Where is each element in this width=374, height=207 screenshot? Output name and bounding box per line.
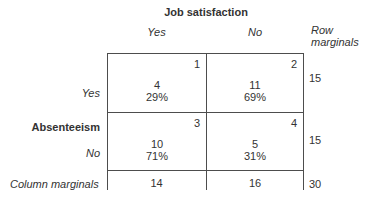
- cell-3-values: 10 71%: [108, 138, 206, 162]
- cell-1: 1 4 29%: [108, 54, 207, 113]
- cell-3-number: 3: [194, 117, 200, 129]
- cell-4: 4 5 31%: [207, 113, 303, 170]
- cell-4-number: 4: [291, 117, 297, 129]
- row-marginal-yes: 15: [309, 72, 321, 84]
- column-marginal-yes: 14: [107, 177, 206, 189]
- cell-4-values: 5 31%: [207, 138, 303, 162]
- cell-1-count: 4: [108, 79, 206, 91]
- row-marginals-header: Row marginals: [311, 24, 369, 48]
- table-grid: 1 4 29% 2 11 69% 3 10 71% 4 5 31%: [107, 53, 304, 171]
- cell-1-percent: 29%: [108, 91, 206, 103]
- cell-2-percent: 69%: [207, 91, 303, 103]
- grand-total: 30: [309, 178, 321, 190]
- cell-3-percent: 71%: [108, 150, 206, 162]
- col-header-yes: Yes: [107, 26, 206, 38]
- cell-4-count: 5: [207, 138, 303, 150]
- cell-2-values: 11 69%: [207, 79, 303, 103]
- row-axis-label: Absenteeism: [0, 121, 100, 133]
- row-header-yes: Yes: [0, 87, 100, 99]
- row-header-no: No: [0, 147, 100, 159]
- contingency-table-figure: Job satisfaction Yes No Row marginals Ye…: [0, 0, 374, 207]
- cell-1-number: 1: [194, 58, 200, 70]
- column-marginal-no: 16: [206, 177, 304, 189]
- cell-1-values: 4 29%: [108, 79, 206, 103]
- col-header-no: No: [206, 26, 304, 38]
- figure-title: Job satisfaction: [106, 6, 306, 18]
- row-marginal-no: 15: [309, 134, 321, 146]
- cell-3: 3 10 71%: [108, 113, 207, 170]
- column-marginals-label: Column marginals: [10, 178, 99, 190]
- cell-3-count: 10: [108, 138, 206, 150]
- cell-2: 2 11 69%: [207, 54, 303, 113]
- cell-2-number: 2: [291, 58, 297, 70]
- cell-4-percent: 31%: [207, 150, 303, 162]
- cell-2-count: 11: [207, 79, 303, 91]
